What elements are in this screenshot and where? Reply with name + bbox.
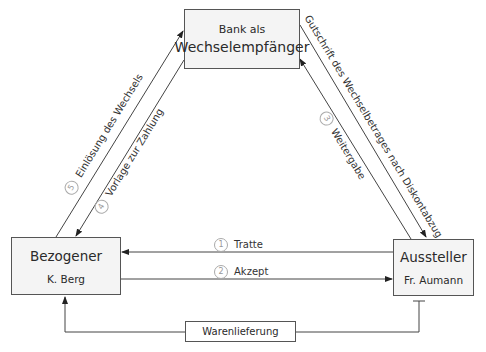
bank-role: Wechselempfänger [175, 39, 310, 55]
step-number-badge: 2 [214, 265, 228, 279]
step-number-badge: 1 [214, 238, 228, 252]
aussteller-name: Aussteller [400, 249, 467, 265]
aussteller-box: Aussteller Fr. Aumann [393, 239, 474, 296]
aussteller-person: Fr. Aumann [404, 274, 463, 286]
flow-tratte-label: 1Tratte [214, 238, 263, 252]
warenlieferung-label: Warenlieferung [202, 326, 278, 337]
bezogener-box: Bezogener K. Berg [11, 237, 121, 295]
bezogener-person: K. Berg [47, 273, 85, 285]
bezogener-name: Bezogener [30, 248, 102, 264]
flow-akzept-label: 2Akzept [214, 265, 268, 279]
bank-box: Bank als Wechselempfänger [184, 9, 300, 69]
warenlieferung-box: Warenlieferung [185, 321, 296, 342]
bank-label: Bank als [219, 23, 266, 36]
